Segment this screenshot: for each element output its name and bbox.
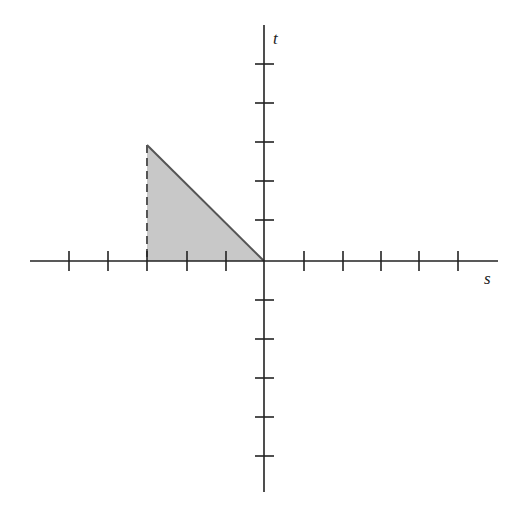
s-axis-label: s bbox=[484, 269, 491, 288]
coordinate-plane: s t bbox=[0, 0, 521, 532]
t-axis-label: t bbox=[273, 29, 279, 48]
